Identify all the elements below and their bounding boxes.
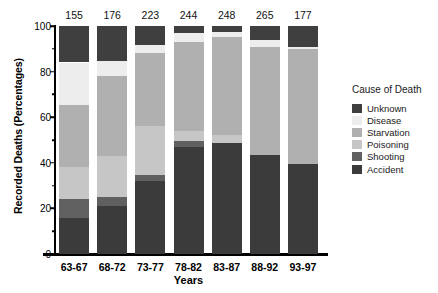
x-tick-label: 78-82 bbox=[175, 261, 202, 273]
bar-segment-poisoning bbox=[59, 167, 89, 199]
bar-count-label: 265 bbox=[256, 9, 274, 21]
y-minor-tick-mark bbox=[52, 230, 55, 232]
bar-segment-disease bbox=[97, 61, 127, 76]
y-minor-tick-mark bbox=[52, 139, 55, 141]
legend-label: Unknown bbox=[367, 103, 407, 114]
bar-segment-accident bbox=[97, 206, 127, 254]
bar-segment-disease bbox=[288, 47, 318, 49]
bar-segment-starvation bbox=[174, 42, 204, 131]
legend-swatch-disease bbox=[352, 116, 362, 125]
x-tick-label: 88-92 bbox=[251, 261, 278, 273]
bar-segment-accident bbox=[174, 147, 204, 254]
legend-item-starvation: Starvation bbox=[352, 126, 438, 138]
bar-segment-unknown bbox=[174, 26, 204, 33]
y-tick-label: 40 bbox=[40, 157, 51, 168]
bar-segment-shooting bbox=[59, 199, 89, 217]
legend-label: Starvation bbox=[367, 127, 410, 138]
x-tick-label: 68-72 bbox=[99, 261, 126, 273]
bar-segment-shooting bbox=[174, 141, 204, 147]
legend-label: Disease bbox=[367, 115, 401, 126]
legend-label: Shooting bbox=[367, 151, 405, 162]
y-minor-tick-mark bbox=[52, 94, 55, 96]
y-tick-label: 80 bbox=[40, 66, 51, 77]
y-minor-tick-mark bbox=[52, 185, 55, 187]
bar-segment-shooting bbox=[135, 175, 165, 181]
y-tick-label: 100 bbox=[34, 21, 51, 32]
legend-swatch-accident bbox=[352, 165, 362, 174]
bar-segment-disease bbox=[174, 33, 204, 42]
bar-count-label: 244 bbox=[180, 9, 198, 21]
legend: Cause of Death UnknownDiseaseStarvationP… bbox=[352, 84, 438, 175]
bar-count-label: 155 bbox=[65, 9, 83, 21]
bar-segment-starvation bbox=[250, 47, 280, 155]
legend-title: Cause of Death bbox=[352, 84, 438, 95]
bar-segment-unknown bbox=[135, 26, 165, 45]
bar-segment-poisoning bbox=[212, 135, 242, 143]
x-tick-label: 73-77 bbox=[137, 261, 164, 273]
y-minor-tick-mark bbox=[52, 48, 55, 50]
bar-segment-starvation bbox=[59, 105, 89, 168]
bar-segment-accident bbox=[288, 164, 318, 254]
x-axis-title: Years bbox=[55, 274, 322, 286]
bar-segment-unknown bbox=[59, 26, 89, 62]
legend-swatch-unknown bbox=[352, 104, 362, 113]
y-tick-label: 0 bbox=[45, 249, 51, 260]
y-tick-label: 60 bbox=[40, 112, 51, 123]
x-tick-label: 83-87 bbox=[213, 261, 240, 273]
bar-count-label: 248 bbox=[218, 9, 236, 21]
bar-segment-unknown bbox=[97, 26, 127, 61]
legend-item-list: UnknownDiseaseStarvationPoisoningShootin… bbox=[352, 102, 438, 175]
bar-segment-shooting bbox=[97, 197, 127, 206]
bar-93-97: 17793-97 bbox=[288, 26, 318, 254]
bar-segment-disease bbox=[135, 45, 165, 53]
bar-segment-accident bbox=[135, 181, 165, 254]
x-tick-label: 63-67 bbox=[61, 261, 88, 273]
legend-item-disease: Disease bbox=[352, 114, 438, 126]
bar-78-82: 24478-82 bbox=[174, 26, 204, 254]
bar-segment-starvation bbox=[135, 53, 165, 126]
bar-83-87: 24883-87 bbox=[212, 26, 242, 254]
bar-segment-accident bbox=[250, 155, 280, 254]
legend-swatch-poisoning bbox=[352, 140, 362, 149]
x-tick-label: 93-97 bbox=[289, 261, 316, 273]
bar-segment-accident bbox=[59, 218, 89, 254]
legend-swatch-shooting bbox=[352, 152, 362, 161]
bar-segment-poisoning bbox=[174, 131, 204, 141]
bar-count-label: 176 bbox=[103, 9, 121, 21]
bar-segment-disease bbox=[59, 63, 89, 105]
chart-figure: Recorded Deaths (Percentages) 0204060801… bbox=[0, 0, 438, 293]
bar-segment-accident bbox=[212, 143, 242, 254]
legend-label: Accident bbox=[367, 164, 403, 175]
bar-segment-poisoning bbox=[97, 156, 127, 197]
bar-88-92: 26588-92 bbox=[250, 26, 280, 254]
legend-item-shooting: Shooting bbox=[352, 151, 438, 163]
bar-segment-starvation bbox=[212, 37, 242, 135]
bar-segment-unknown bbox=[288, 26, 318, 47]
bar-63-67: 15563-67 bbox=[59, 26, 89, 254]
y-tick-label: 20 bbox=[40, 203, 51, 214]
plot-area: 02040608010015563-6717668-7222373-772447… bbox=[55, 26, 322, 254]
legend-swatch-starvation bbox=[352, 128, 362, 137]
legend-label: Poisoning bbox=[367, 139, 409, 150]
legend-item-accident: Accident bbox=[352, 163, 438, 175]
legend-item-poisoning: Poisoning bbox=[352, 139, 438, 151]
bar-68-72: 17668-72 bbox=[97, 26, 127, 254]
y-axis-title: Recorded Deaths (Percentages) bbox=[12, 36, 24, 236]
bar-segment-disease bbox=[212, 32, 242, 38]
legend-item-unknown: Unknown bbox=[352, 102, 438, 114]
bar-segment-unknown bbox=[250, 26, 280, 40]
bar-73-77: 22373-77 bbox=[135, 26, 165, 254]
bar-count-label: 177 bbox=[294, 9, 312, 21]
bar-segment-starvation bbox=[97, 76, 127, 156]
bar-count-label: 223 bbox=[142, 9, 160, 21]
bar-segment-poisoning bbox=[135, 126, 165, 175]
bar-segment-starvation bbox=[288, 49, 318, 164]
bar-segment-disease bbox=[250, 40, 280, 47]
bar-segment-unknown bbox=[212, 26, 242, 32]
